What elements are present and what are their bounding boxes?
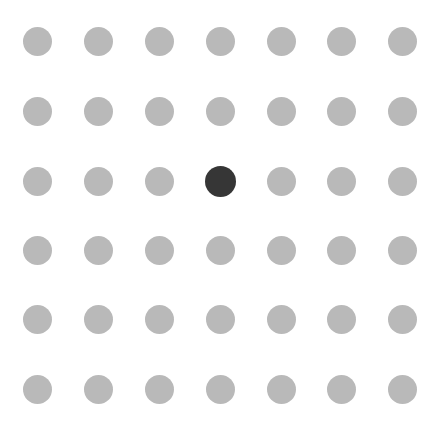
grid-dot xyxy=(206,97,235,126)
grid-dot xyxy=(388,236,417,265)
grid-dot xyxy=(145,305,174,334)
grid-dot xyxy=(388,27,417,56)
grid-dot xyxy=(23,97,52,126)
grid-dot xyxy=(84,236,113,265)
grid-dot xyxy=(388,167,417,196)
grid-dot xyxy=(84,27,113,56)
grid-dot xyxy=(145,97,174,126)
grid-dot xyxy=(84,167,113,196)
grid-dot xyxy=(206,27,235,56)
grid-dot xyxy=(327,305,356,334)
grid-dot xyxy=(327,27,356,56)
grid-dot xyxy=(206,236,235,265)
grid-dot xyxy=(206,375,235,404)
grid-dot xyxy=(267,236,296,265)
grid-dot xyxy=(145,375,174,404)
grid-dot xyxy=(267,27,296,56)
grid-dot xyxy=(327,236,356,265)
grid-dot xyxy=(84,97,113,126)
grid-dot xyxy=(388,375,417,404)
grid-dot xyxy=(23,305,52,334)
grid-dot xyxy=(84,305,113,334)
grid-dot xyxy=(388,305,417,334)
grid-dot xyxy=(23,167,52,196)
grid-dot xyxy=(23,27,52,56)
grid-dot xyxy=(145,236,174,265)
grid-dot xyxy=(267,305,296,334)
grid-dot xyxy=(23,236,52,265)
grid-dot xyxy=(327,375,356,404)
grid-dot xyxy=(206,305,235,334)
grid-dot xyxy=(327,167,356,196)
grid-dot xyxy=(327,97,356,126)
grid-dot xyxy=(388,97,417,126)
grid-dot xyxy=(267,167,296,196)
grid-dot xyxy=(84,375,113,404)
grid-dot xyxy=(23,375,52,404)
dot-grid xyxy=(0,0,440,429)
grid-dot xyxy=(267,375,296,404)
grid-dot xyxy=(145,27,174,56)
grid-dot xyxy=(267,97,296,126)
grid-dot xyxy=(145,167,174,196)
active-dot xyxy=(205,166,236,197)
